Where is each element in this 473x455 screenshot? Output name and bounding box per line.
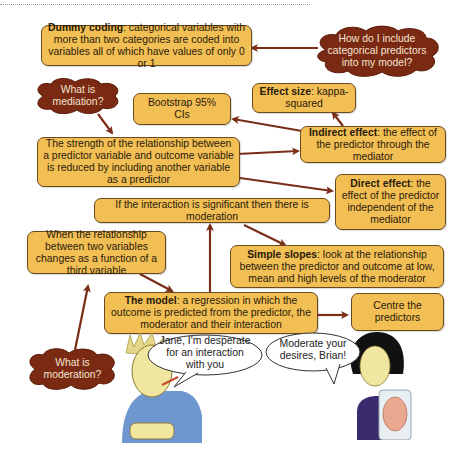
significant-moderation-box: If the interaction is significant then t… (94, 198, 330, 223)
centre-predictors-box: Centre the predictors (351, 293, 444, 331)
mediation-definition-box: The strength of the relationship between… (37, 137, 240, 187)
moderation-question-cloud: What is moderation? (25, 347, 120, 391)
mediation-question-cloud: What is mediation? (33, 77, 123, 115)
direct-effect-box: Direct effect: the effect of the predict… (335, 174, 446, 230)
effect-size-box: Effect size: kappa-squared (252, 83, 356, 113)
bootstrap-box: Bootstrap 95% CIs (133, 93, 231, 125)
indirect-effect-box: Indirect effect: the effect of the predi… (300, 126, 446, 163)
the-model-box: The model: a regression in which the out… (104, 292, 318, 334)
moderation-definition-box: When the relationship between two variab… (27, 231, 166, 274)
dummy-coding-box: Dummy coding: categorical variables with… (41, 25, 252, 66)
simple-slopes-box: Simple slopes: look at the relationship … (230, 245, 444, 288)
jane-speech-bubble: Moderate your desires, Brian! (264, 332, 362, 376)
categorical-question-cloud: How do I include categorical predictors … (312, 24, 442, 78)
brian-speech-bubble: Jane, I'm desperate for an interaction w… (146, 333, 264, 381)
